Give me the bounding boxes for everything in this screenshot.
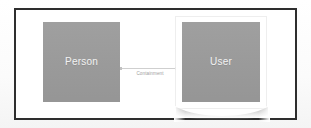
diagram-node-person-label: Person <box>65 57 98 67</box>
diagram-node-person[interactable]: Person <box>43 22 120 102</box>
diagram-frame: Person Containment User <box>14 8 297 120</box>
diagram-canvas[interactable]: Person Containment User <box>0 0 311 128</box>
connector-label-containment: Containment <box>124 72 176 77</box>
diagram-node-user[interactable]: User <box>182 22 260 102</box>
connector-person-to-user[interactable] <box>120 68 177 69</box>
selection-frame-user[interactable]: User <box>176 17 266 108</box>
selection-curl-shadow-icon <box>174 106 270 122</box>
connector-start-handle-icon[interactable] <box>120 67 122 70</box>
diagram-node-user-label: User <box>210 57 232 67</box>
